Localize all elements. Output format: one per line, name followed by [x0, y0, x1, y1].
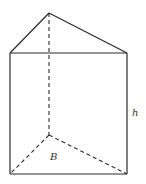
hidden-edge-bottom-right: [49, 135, 127, 174]
edge-top-left-apex: [10, 13, 49, 53]
triangular-prism-diagram: h B: [0, 0, 146, 184]
hidden-edge-bottom-left: [10, 135, 49, 174]
height-label: h: [132, 107, 138, 118]
base-label: B: [49, 151, 57, 162]
edge-top-apex-right: [49, 13, 127, 53]
